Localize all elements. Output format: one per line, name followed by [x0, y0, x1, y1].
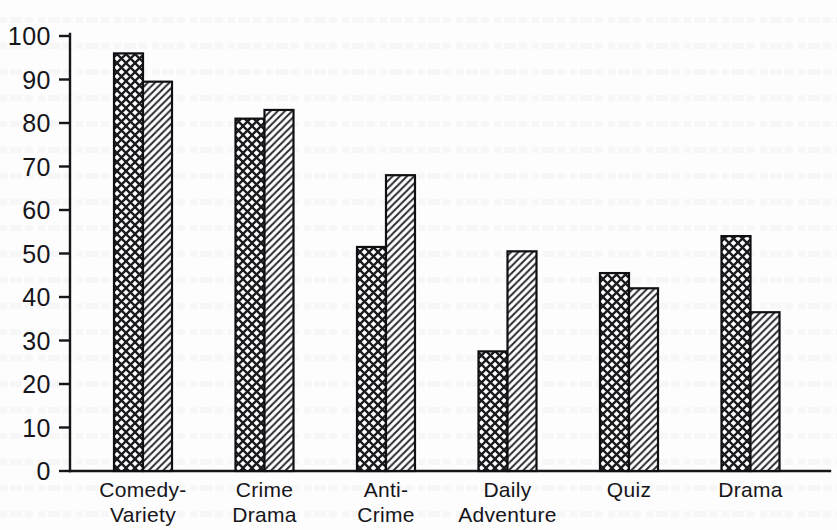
- bar-chart-plot: 0102030405060708090100 Comedy-VarietyCri…: [0, 0, 837, 530]
- x-tick-label: Daily: [483, 478, 531, 501]
- x-tick-label: Crime: [357, 503, 415, 526]
- y-tick-label: 100: [8, 22, 51, 50]
- y-tick-label: 50: [22, 240, 51, 268]
- y-tick-label: 30: [22, 327, 51, 355]
- bar-series-2-2: [386, 175, 415, 471]
- x-tick-label: Anti-: [364, 478, 409, 501]
- y-tick-label: 40: [22, 283, 51, 311]
- x-tick-label: Comedy-: [99, 478, 186, 501]
- y-tick-label: 60: [22, 196, 51, 224]
- bar-series-2-0: [143, 82, 172, 471]
- bar-series-1-4: [600, 273, 629, 471]
- x-tick-label: Variety: [110, 503, 176, 526]
- bar-series-group: [114, 53, 780, 471]
- x-tick-label: Quiz: [607, 478, 651, 501]
- y-tick-label: 20: [22, 370, 51, 398]
- y-tick-label: 10: [22, 414, 51, 442]
- y-axis-ticks: 0102030405060708090100: [8, 22, 70, 485]
- y-tick-label: 0: [37, 457, 51, 485]
- y-tick-label: 70: [22, 153, 51, 181]
- bar-series-1-3: [479, 351, 508, 471]
- x-tick-label: Adventure: [458, 503, 556, 526]
- bar-series-1-0: [114, 53, 143, 471]
- bar-series-2-5: [751, 312, 780, 471]
- x-tick-label: Drama: [232, 503, 297, 526]
- x-tick-label: Crime: [236, 478, 294, 501]
- bar-series-1-2: [357, 247, 386, 471]
- y-tick-label: 80: [22, 109, 51, 137]
- y-tick-label: 90: [22, 66, 51, 94]
- bar-series-1-5: [722, 236, 751, 471]
- bar-series-2-3: [508, 251, 537, 471]
- x-axis-labels: Comedy-VarietyCrimeDramaAnti-CrimeDailyA…: [99, 478, 782, 526]
- x-tick-label: Drama: [718, 478, 783, 501]
- bar-series-2-4: [629, 288, 658, 471]
- bar-series-1-1: [236, 119, 265, 471]
- chart-figure: 0102030405060708090100 Comedy-VarietyCri…: [0, 0, 837, 530]
- bar-series-2-1: [265, 110, 294, 471]
